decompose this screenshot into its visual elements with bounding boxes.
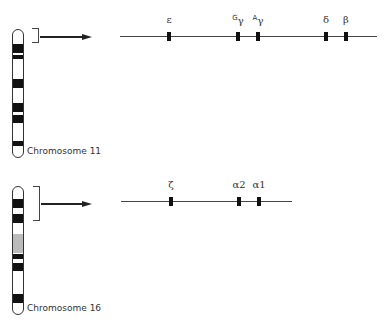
chromosome-band	[13, 294, 23, 303]
arrow-head-icon	[82, 34, 92, 40]
gene-label-G-gamma: Gγ	[232, 14, 243, 26]
gene-symbol: α2	[232, 179, 245, 190]
arrow-shaft	[40, 36, 82, 38]
gene-label-zeta: ζ	[168, 179, 173, 190]
gene-symbol: γ	[238, 15, 244, 26]
gene-symbol: ε	[166, 14, 171, 25]
chromosome-label: Chromosome 11	[27, 146, 101, 156]
chromosome-16-ideogram	[12, 186, 24, 315]
gene-label-epsilon: ε	[166, 14, 171, 25]
chromosome-band	[13, 103, 23, 112]
gene-symbol: β	[343, 14, 349, 25]
chromosome-band	[13, 214, 23, 223]
gene-symbol: α1	[252, 179, 265, 190]
gene-symbol: ζ	[168, 179, 173, 190]
gene-symbol: γ	[257, 15, 263, 26]
gene-beta	[344, 32, 348, 41]
gene-zeta	[169, 197, 173, 206]
gene-label-alpha2: α2	[232, 179, 245, 190]
chromosome-band	[13, 79, 23, 88]
arrow-head-icon	[82, 201, 92, 207]
gene-G-gamma	[236, 32, 240, 41]
chromosome-band	[13, 141, 23, 146]
gene-A-gamma	[256, 32, 260, 41]
gene-label-A-gamma: Aγ	[253, 14, 264, 26]
gene-label-beta: β	[343, 14, 349, 25]
chromosome-label: Chromosome 16	[27, 303, 101, 313]
gene-delta	[324, 32, 328, 41]
gene-cluster-line	[121, 201, 292, 202]
region-bracket	[33, 186, 40, 221]
arrow-shaft	[41, 203, 82, 205]
gene-label-alpha1: α1	[252, 179, 265, 190]
gene-epsilon	[167, 32, 171, 41]
chromosome-band	[13, 115, 23, 123]
chromosome-band	[13, 263, 23, 271]
gene-alpha1	[257, 197, 261, 206]
gene-alpha2	[237, 197, 241, 206]
chromosome-band	[13, 254, 23, 259]
region-bracket	[32, 28, 39, 43]
chromosome-band	[13, 199, 23, 208]
gene-cluster-line	[120, 36, 377, 37]
chromosome-11-ideogram	[12, 29, 24, 158]
gene-symbol: δ	[323, 14, 329, 25]
chromosome-band	[13, 234, 23, 253]
chromosome-band	[13, 44, 23, 53]
chromosome-band	[13, 55, 23, 59]
gene-label-delta: δ	[323, 14, 329, 25]
